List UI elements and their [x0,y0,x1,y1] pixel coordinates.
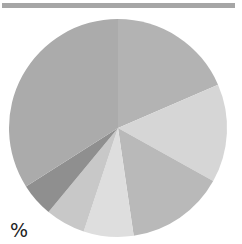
pie-chart [0,0,242,244]
unit-label: % [10,219,28,241]
